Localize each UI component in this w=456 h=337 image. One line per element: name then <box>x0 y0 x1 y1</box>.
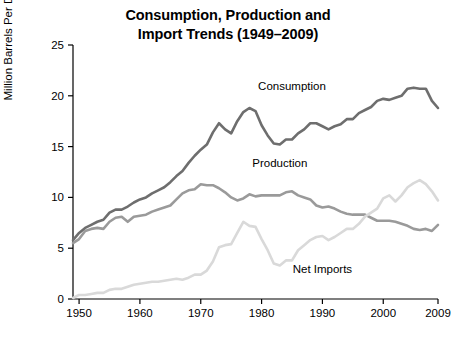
x-ticks: 1950196019701980199020002009 <box>66 299 451 319</box>
y-tick-label: 10 <box>51 191 64 203</box>
series-label-consumption: Consumption <box>258 80 326 92</box>
y-tick-label: 20 <box>51 90 64 102</box>
series-line-production <box>73 184 438 243</box>
x-tick-label: 1990 <box>310 307 336 319</box>
series-label-net-imports: Net Imports <box>293 263 353 275</box>
y-tick-label: 25 <box>51 39 64 51</box>
plot-area: 0510152025 1950196019701980199020002009 … <box>0 0 456 337</box>
x-tick-label: 2000 <box>370 307 396 319</box>
y-ticks: 0510152025 <box>51 39 73 305</box>
series-label-production: Production <box>252 157 307 169</box>
y-tick-label: 5 <box>58 242 64 254</box>
y-tick-label: 0 <box>58 293 64 305</box>
series-line-net-imports <box>73 180 438 298</box>
energy-trends-chart: Consumption, Production and Import Trend… <box>0 0 456 337</box>
series-lines <box>73 88 438 298</box>
x-tick-label: 1980 <box>249 307 275 319</box>
axes <box>73 45 438 299</box>
x-tick-label: 2009 <box>425 307 451 319</box>
x-tick-label: 1960 <box>127 307 153 319</box>
x-tick-label: 1950 <box>66 307 92 319</box>
x-tick-label: 1970 <box>188 307 214 319</box>
y-tick-label: 15 <box>51 141 64 153</box>
